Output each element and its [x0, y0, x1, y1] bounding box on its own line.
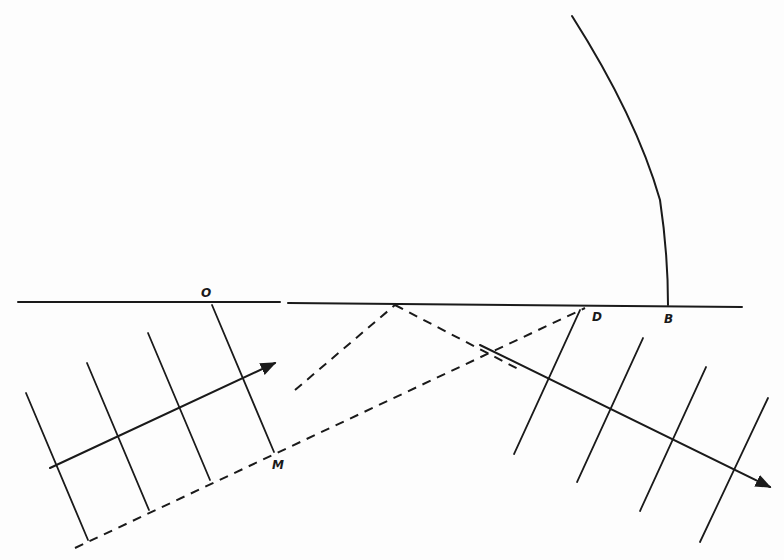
reflected-wavefronts [514, 310, 768, 542]
diagram-canvas: O M D B [0, 0, 784, 560]
label-O: O [201, 286, 211, 300]
incident-wavefronts [26, 305, 274, 540]
label-M: M [272, 458, 284, 472]
label-B: B [664, 312, 673, 326]
arc-curve [572, 16, 668, 305]
label-D: D [592, 310, 602, 324]
reflected-ray [480, 345, 770, 487]
incident-ray [50, 363, 275, 468]
reflection-diagram: O M D B [0, 0, 784, 560]
reflecting-surface [18, 302, 742, 307]
